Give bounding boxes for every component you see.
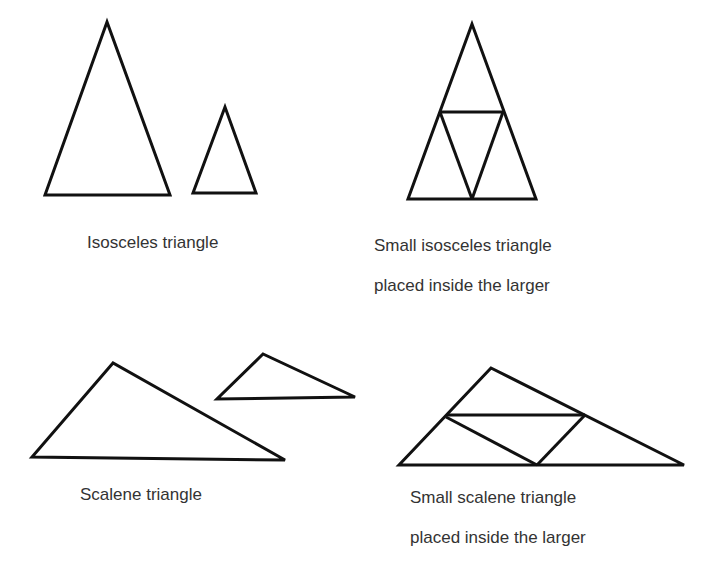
- scalene-label: Scalene triangle: [80, 485, 202, 505]
- isosceles-subdivided-triangle: [408, 24, 536, 199]
- isosceles-inside-label-line2: placed inside the larger: [374, 276, 550, 296]
- large-scalene-triangle: [32, 363, 285, 460]
- large-isosceles-triangle: [45, 22, 170, 195]
- isosceles-label: Isosceles triangle: [87, 233, 218, 253]
- small-isosceles-triangle: [193, 107, 256, 193]
- isosceles-inside-label-line1: Small isosceles triangle: [374, 236, 552, 256]
- scalene-inside-label-line2: placed inside the larger: [410, 528, 586, 548]
- scalene-subdivided-triangle: [399, 368, 684, 465]
- scalene-inside-label-line1: Small scalene triangle: [410, 488, 576, 508]
- small-scalene-triangle: [217, 354, 355, 399]
